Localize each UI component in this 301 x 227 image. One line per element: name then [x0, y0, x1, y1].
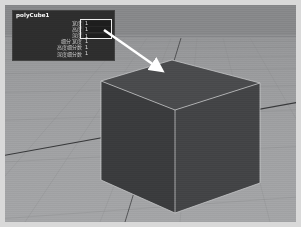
channel-value-width[interactable]: 1	[84, 20, 112, 26]
channel-value-depth[interactable]: 1	[84, 33, 112, 39]
channel-value-subdivisions-depth[interactable]: 1	[84, 51, 112, 57]
channel-row-width[interactable]: 宽度 1	[13, 20, 114, 26]
channel-label-subdivisions-depth: 深度细分数	[13, 52, 84, 57]
viewport-3d[interactable]: polyCube1 宽度 1 高度 1 深度 1 细分 宽度 1	[5, 5, 296, 222]
channel-row-subdivisions-depth[interactable]: 深度细分数 1	[13, 51, 114, 57]
channel-row-height[interactable]: 高度 1	[13, 26, 114, 32]
channel-label-width: 宽度	[13, 21, 84, 26]
channel-value-subdivisions-width[interactable]: 1	[84, 39, 112, 45]
channel-label-subdivisions-height: 高度细分数	[13, 45, 84, 50]
channel-value-subdivisions-height[interactable]: 1	[84, 45, 112, 51]
channel-row-subdivisions-height[interactable]: 高度细分数 1	[13, 45, 114, 51]
channel-box-panel[interactable]: polyCube1 宽度 1 高度 1 深度 1 细分 宽度 1	[12, 10, 115, 61]
channel-value-height[interactable]: 1	[84, 26, 112, 32]
screenshot-root: polyCube1 宽度 1 高度 1 深度 1 细分 宽度 1	[0, 0, 301, 227]
channel-box-title: polyCube1	[16, 13, 50, 19]
channel-box-rows: 宽度 1 高度 1 深度 1 细分 宽度 1 高度细分数 1	[13, 20, 114, 57]
